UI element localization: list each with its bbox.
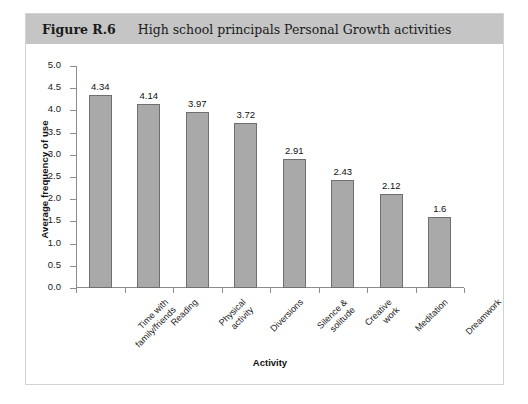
x-axis-tick xyxy=(173,288,174,293)
y-axis-tick-label: 2.5 xyxy=(48,170,61,181)
x-axis-tick xyxy=(464,288,465,293)
bar-value-label: 1.6 xyxy=(415,203,465,214)
y-axis-tick: 4.0 xyxy=(70,110,76,111)
y-axis-tick-label: 5.0 xyxy=(48,59,61,70)
bar xyxy=(234,123,257,288)
y-axis-tick-label: 0.5 xyxy=(48,259,61,270)
x-axis-category-label: Dreamwork xyxy=(463,297,503,337)
x-axis-tick xyxy=(125,288,126,293)
x-axis-tick xyxy=(76,288,77,293)
bar-value-label: 2.43 xyxy=(318,166,368,177)
bar-value-label: 3.72 xyxy=(221,109,271,120)
y-axis-tick-label: 4.5 xyxy=(48,81,61,92)
y-axis-tick: 1.0 xyxy=(70,244,76,245)
x-axis-tick xyxy=(416,288,417,293)
figure-caption: High school principals Personal Growth a… xyxy=(138,22,452,37)
x-axis-tick xyxy=(222,288,223,293)
bar-value-label: 2.91 xyxy=(269,145,319,156)
y-axis-tick-label: 3.5 xyxy=(48,126,61,137)
bar xyxy=(89,95,112,288)
y-axis-tick: 2.0 xyxy=(70,199,76,200)
bar xyxy=(283,159,306,288)
figure-number: Figure R.6 xyxy=(42,22,116,37)
y-axis-tick-label: 1.0 xyxy=(48,237,61,248)
y-axis-tick: 0.5 xyxy=(70,266,76,267)
bar-chart: Average frequency of use 0.00.51.01.52.0… xyxy=(26,44,505,385)
bar xyxy=(380,194,403,288)
bar-value-label: 2.12 xyxy=(366,180,416,191)
y-axis-tick: 3.5 xyxy=(70,133,76,134)
y-axis-tick: 5.0 xyxy=(70,66,76,67)
x-axis-category-label: Time withfamily/friends xyxy=(126,297,178,349)
y-axis-tick-label: 1.5 xyxy=(48,214,61,225)
y-axis-spine xyxy=(76,66,77,288)
y-axis-tick: 1.5 xyxy=(70,221,76,222)
bar xyxy=(331,180,354,288)
x-axis-category-label: Meditation xyxy=(413,297,450,334)
y-axis-tick: 2.5 xyxy=(70,177,76,178)
x-axis-tick xyxy=(270,288,271,293)
y-axis-tick-label: 0.0 xyxy=(48,281,61,292)
y-axis-tick-label: 3.0 xyxy=(48,148,61,159)
x-axis-category-label: Creativework xyxy=(363,297,402,336)
bar xyxy=(137,104,160,288)
y-axis-tick-label: 4.0 xyxy=(48,103,61,114)
bar-value-label: 3.97 xyxy=(172,98,222,109)
x-axis-tick xyxy=(367,288,368,293)
bar xyxy=(186,112,209,288)
y-axis-tick-label: 2.0 xyxy=(48,192,61,203)
bar xyxy=(428,217,451,288)
bar-value-label: 4.14 xyxy=(124,90,174,101)
plot-area: 0.00.51.01.52.02.53.03.54.04.55.0 4.344.… xyxy=(76,66,470,288)
figure-header: Figure R.6 High school principals Person… xyxy=(26,14,503,44)
x-axis-category-label: Silence &solitude xyxy=(315,297,357,339)
figure-panel: Figure R.6 High school principals Person… xyxy=(25,13,504,385)
y-axis-tick: 3.0 xyxy=(70,155,76,156)
x-axis-category-label: Physicalactivity xyxy=(217,297,256,336)
x-axis-category-label: Diversions xyxy=(268,297,305,334)
bar-value-label: 4.34 xyxy=(75,81,125,92)
x-axis-tick xyxy=(319,288,320,293)
x-axis-title: Activity xyxy=(76,357,464,368)
